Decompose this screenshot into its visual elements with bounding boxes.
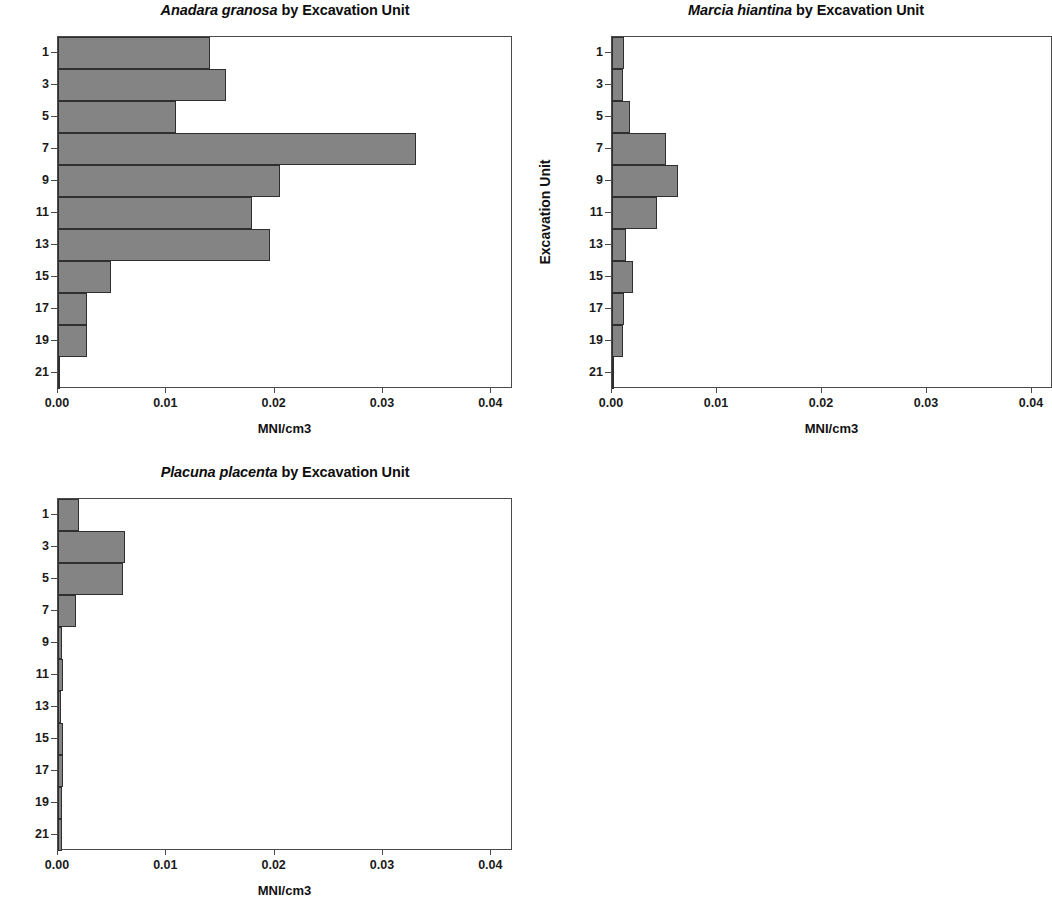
chart-title-suffix: by Excavation Unit bbox=[278, 464, 410, 480]
chart-title-placuna-placenta: Placuna placenta by Excavation Unit bbox=[0, 464, 570, 480]
x-axis-title-placuna-placenta: MNI/cm3 bbox=[258, 883, 311, 898]
x-tick-mark bbox=[490, 850, 491, 855]
x-tick-label: 0.03 bbox=[370, 858, 394, 872]
y-tick-mark bbox=[51, 578, 57, 579]
y-tick-label: 17 bbox=[11, 763, 49, 777]
y-tick-label: 21 bbox=[11, 827, 49, 841]
bar-unit-19 bbox=[58, 787, 62, 819]
x-tick-mark bbox=[57, 850, 58, 855]
y-tick-label: 7 bbox=[11, 603, 49, 617]
bar-unit-13 bbox=[58, 691, 61, 723]
x-tick-mark bbox=[165, 850, 166, 855]
y-tick-mark bbox=[51, 546, 57, 547]
y-tick-label: 11 bbox=[11, 667, 49, 681]
y-tick-mark bbox=[51, 706, 57, 707]
y-tick-label: 3 bbox=[11, 539, 49, 553]
x-tick-label: 0.02 bbox=[261, 858, 285, 872]
y-tick-mark bbox=[51, 642, 57, 643]
y-tick-label: 5 bbox=[11, 571, 49, 585]
chart-panel-placuna-placenta: Placuna placenta by Excavation Unit13579… bbox=[0, 0, 1052, 898]
x-tick-label: 0.04 bbox=[478, 858, 502, 872]
bar-unit-9 bbox=[58, 627, 62, 659]
x-tick-mark bbox=[274, 850, 275, 855]
y-tick-label: 1 bbox=[11, 507, 49, 521]
y-tick-label: 13 bbox=[11, 699, 49, 713]
bar-unit-17 bbox=[58, 755, 63, 787]
y-tick-mark bbox=[51, 514, 57, 515]
bar-unit-3 bbox=[58, 531, 125, 563]
y-tick-mark bbox=[51, 738, 57, 739]
bar-unit-7 bbox=[58, 595, 76, 627]
chart-title-species: Placuna placenta bbox=[161, 464, 278, 480]
bar-unit-21 bbox=[58, 819, 62, 851]
y-tick-mark bbox=[51, 674, 57, 675]
bar-unit-5 bbox=[58, 563, 123, 595]
bar-unit-11 bbox=[58, 659, 63, 691]
x-tick-label: 0.00 bbox=[45, 858, 69, 872]
x-tick-label: 0.01 bbox=[153, 858, 177, 872]
y-tick-mark bbox=[51, 770, 57, 771]
plot-area-placuna-placenta bbox=[57, 498, 512, 850]
y-tick-label: 9 bbox=[11, 635, 49, 649]
y-tick-mark bbox=[51, 610, 57, 611]
y-tick-mark bbox=[51, 802, 57, 803]
y-tick-label: 19 bbox=[11, 795, 49, 809]
y-tick-label: 15 bbox=[11, 731, 49, 745]
bar-unit-15 bbox=[58, 723, 63, 755]
x-tick-mark bbox=[382, 850, 383, 855]
y-tick-mark bbox=[51, 834, 57, 835]
bar-unit-1 bbox=[58, 499, 79, 531]
